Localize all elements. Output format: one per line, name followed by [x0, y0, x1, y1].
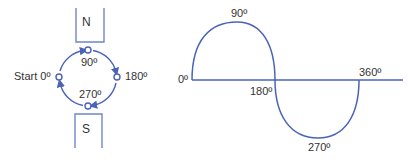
wave-zero-label: 0º: [178, 74, 188, 85]
bottom-position-label: 270º: [79, 89, 101, 100]
wave-cross-label: 180º: [250, 86, 272, 97]
wave-end-label: 360º: [359, 67, 381, 78]
right-position-label: 180º: [125, 71, 147, 82]
diagram-graphics: [0, 0, 412, 162]
top-position-label: 90º: [81, 57, 97, 68]
ac-generator-diagram: N S Start 0º 90º 180º 270º 0º 90º 180º 2…: [0, 0, 412, 162]
wave-trough-label: 270º: [308, 142, 330, 153]
wave-peak-label: 90º: [231, 8, 247, 19]
north-label: N: [82, 16, 91, 28]
south-label: S: [82, 123, 90, 135]
start-label: Start 0º: [14, 71, 50, 82]
